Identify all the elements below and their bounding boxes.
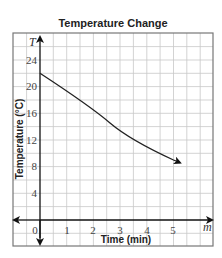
y-tick-4: 4 (32, 187, 38, 199)
plot-frame (13, 33, 213, 246)
chart-plot: 24 20 16 12 8 4 0 1 2 3 4 5 T m Time (mi… (0, 0, 222, 258)
x-axis-title: Time (min) (101, 234, 151, 245)
grid (13, 33, 213, 246)
y-tick-24: 24 (26, 54, 38, 66)
y-tick-8: 8 (32, 160, 38, 172)
x-tick-2: 2 (90, 224, 96, 236)
x-tick-0: 0 (32, 224, 38, 236)
x-tick-1: 1 (64, 224, 70, 236)
y-tick-12: 12 (26, 134, 37, 146)
x-variable-label: m (203, 220, 212, 234)
y-tick-20: 20 (26, 80, 38, 92)
x-tick-5: 5 (170, 224, 176, 236)
y-axis-title: Temperature (°C) (14, 99, 25, 180)
y-tick-16: 16 (26, 107, 38, 119)
